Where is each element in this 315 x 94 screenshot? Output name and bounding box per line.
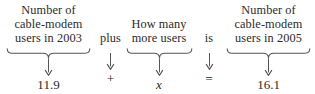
- equation-column-operator-is: is =: [195, 0, 223, 94]
- phrase-line: users in 2005: [234, 31, 302, 45]
- phrase-line: users in 2003: [14, 31, 82, 45]
- down-arrow: [204, 53, 215, 70]
- connector-word-plus: plus: [100, 31, 121, 45]
- phrase-line: Number of: [14, 3, 82, 17]
- equation-value: 11.9: [37, 78, 59, 92]
- down-arrow: [263, 59, 274, 76]
- equation-column-term-left: Number of cable-modem users in 2003 11.9: [4, 0, 93, 94]
- phrase-line: cable-modem: [234, 17, 302, 31]
- equation-value: 16.1: [257, 78, 280, 92]
- phrase-term-unknown: How many more users: [131, 17, 186, 45]
- phrase-line: Number of: [234, 3, 302, 17]
- phrase-line: more users: [131, 31, 186, 45]
- phrase-term-left: Number of cable-modem users in 2003: [14, 3, 82, 46]
- equation-column-term-unknown: How many more users x: [124, 0, 194, 94]
- equation-value: x: [156, 78, 162, 92]
- equation-column-term-right: Number of cable-modem users in 2005 16.1: [224, 0, 313, 94]
- equation-value: +: [107, 72, 115, 86]
- phrase-line: cable-modem: [14, 17, 82, 31]
- phrase-line: How many: [131, 17, 186, 31]
- underbrace: [126, 48, 193, 59]
- word-equation-diagram: Number of cable-modem users in 2003 11.9…: [0, 0, 315, 94]
- equation-value: =: [205, 72, 213, 86]
- underbrace: [226, 48, 311, 59]
- down-arrow: [43, 59, 54, 76]
- phrase-term-right: Number of cable-modem users in 2005: [234, 3, 302, 46]
- down-arrow: [154, 59, 165, 76]
- underbrace: [6, 48, 91, 59]
- connector-word-is: is: [205, 31, 213, 45]
- down-arrow: [105, 53, 116, 70]
